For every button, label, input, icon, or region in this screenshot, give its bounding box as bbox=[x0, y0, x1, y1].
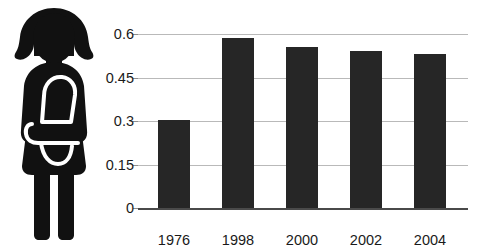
ytick-label-0: 0 bbox=[74, 201, 134, 216]
bar-2004[interactable] bbox=[414, 54, 446, 208]
ytick-label-0.15: 0.15 bbox=[74, 157, 134, 172]
bar-series bbox=[138, 34, 468, 208]
xtick-label-2004: 2004 bbox=[390, 233, 470, 248]
bar-slot-1976 bbox=[158, 34, 190, 208]
bar-slot-1998 bbox=[222, 34, 254, 208]
bar-slot-2000 bbox=[286, 34, 318, 208]
ytick-label-0.3: 0.3 bbox=[74, 114, 134, 129]
chart-page: 0.6 0.45 0.3 0.15 0 bbox=[0, 0, 490, 251]
bar-2000[interactable] bbox=[286, 47, 318, 208]
ytick-label-0.6: 0.6 bbox=[74, 27, 134, 42]
bar-slot-2002 bbox=[350, 34, 382, 208]
bar-1998[interactable] bbox=[222, 38, 254, 208]
plot-area: 0.6 0.45 0.3 0.15 0 bbox=[138, 34, 468, 208]
bar-chart: 0.6 0.45 0.3 0.15 0 bbox=[100, 14, 480, 246]
ytick-label-0.45: 0.45 bbox=[74, 70, 134, 85]
bar-slot-2004 bbox=[414, 34, 446, 208]
bar-2002[interactable] bbox=[350, 51, 382, 208]
bar-1976[interactable] bbox=[158, 120, 190, 208]
x-axis-line bbox=[138, 208, 468, 210]
